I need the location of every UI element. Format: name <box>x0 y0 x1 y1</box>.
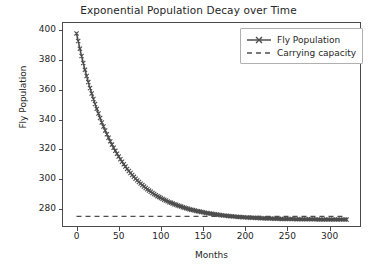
x-axis-label: Months <box>62 250 361 260</box>
y-tick-label: 300 <box>16 173 56 183</box>
y-tick-mark <box>59 120 63 121</box>
legend-label-fly-population: Fly Population <box>277 34 340 46</box>
x-tick-mark <box>203 227 204 231</box>
figure-canvas: Exponential Population Decay over Time F… <box>0 0 377 269</box>
x-tick-mark <box>119 227 120 231</box>
y-tick-mark <box>59 179 63 180</box>
chart-legend: Fly Population Carrying capacity <box>240 28 363 64</box>
y-tick-label: 320 <box>16 143 56 153</box>
x-tick-label: 200 <box>225 231 265 241</box>
x-tick-label: 150 <box>183 231 223 241</box>
y-tick-label: 280 <box>16 203 56 213</box>
x-tick-label: 250 <box>267 231 307 241</box>
y-tick-label: 340 <box>16 114 56 124</box>
legend-label-carrying-capacity: Carrying capacity <box>277 47 356 59</box>
x-tick-mark <box>161 227 162 231</box>
x-tick-mark <box>287 227 288 231</box>
legend-line-marker-icon <box>246 34 272 46</box>
chart-title: Exponential Population Decay over Time <box>0 4 377 16</box>
x-tick-mark <box>77 227 78 231</box>
x-tick-label: 0 <box>57 231 97 241</box>
y-tick-mark <box>59 60 63 61</box>
y-tick-label: 360 <box>16 84 56 94</box>
x-tick-label: 100 <box>141 231 181 241</box>
y-tick-mark <box>59 30 63 31</box>
y-tick-mark <box>59 149 63 150</box>
legend-item-carrying-capacity: Carrying capacity <box>246 46 356 59</box>
x-tick-mark <box>245 227 246 231</box>
x-tick-label: 50 <box>99 231 139 241</box>
y-tick-label: 380 <box>16 54 56 64</box>
x-tick-label: 300 <box>310 231 350 241</box>
y-tick-label: 400 <box>16 24 56 34</box>
y-tick-mark <box>59 209 63 210</box>
x-tick-mark <box>330 227 331 231</box>
legend-dashed-line-icon <box>246 47 272 59</box>
y-tick-mark <box>59 90 63 91</box>
legend-item-fly-population: Fly Population <box>246 33 356 46</box>
